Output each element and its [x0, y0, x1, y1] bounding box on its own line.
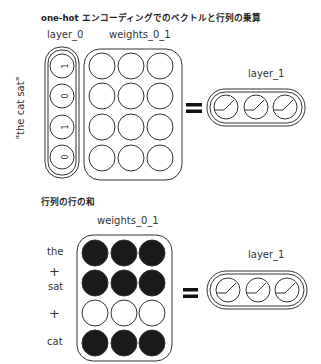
layer1-vector-sum [207, 271, 307, 309]
plus-sign: + [49, 264, 60, 279]
svg-text:0: 0 [61, 154, 70, 159]
row-word-cat: cat [47, 336, 63, 347]
row-word-the: the [47, 246, 63, 257]
row-word-sat: sat [48, 281, 63, 292]
section2-title: 行列の行の和 [41, 195, 95, 207]
weights-matrix [84, 49, 182, 180]
weights-matrix-sum [77, 235, 172, 361]
weights-label-sum: weights_0_1 [97, 215, 159, 226]
svg-text:1: 1 [61, 124, 70, 129]
equals-icon-sum [183, 288, 198, 298]
plus-sign: + [49, 306, 60, 321]
equals-icon [186, 103, 202, 113]
svg-text:1: 1 [61, 63, 70, 68]
layer1-vector [207, 89, 305, 126]
layer1-label-sum: layer_1 [248, 249, 284, 260]
svg-text:0: 0 [61, 93, 70, 98]
